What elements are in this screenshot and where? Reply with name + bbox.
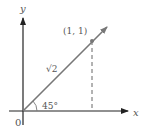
angle-arc xyxy=(33,101,37,111)
point-1-1 xyxy=(90,39,94,43)
length-label: √2 xyxy=(46,64,57,74)
vector-diagram: y x 0 (1, 1) √2 45° xyxy=(0,0,144,136)
angle-label: 45° xyxy=(42,101,58,111)
vector-arrow xyxy=(23,27,107,111)
x-axis-label: x xyxy=(133,107,139,118)
origin-label: 0 xyxy=(15,117,21,128)
y-axis-label: y xyxy=(19,3,26,14)
point-label: (1, 1) xyxy=(63,26,87,36)
